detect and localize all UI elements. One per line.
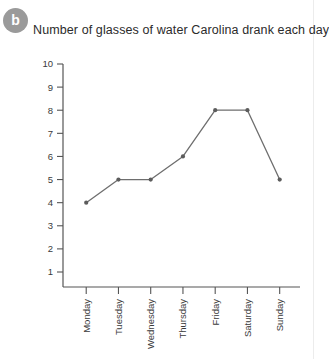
y-axis: 10987654321 <box>42 58 63 287</box>
data-point-marker <box>181 154 185 158</box>
x-tick-label: Sunday <box>274 299 285 331</box>
data-point-marker <box>149 177 153 181</box>
y-tick-label: 9 <box>48 82 53 93</box>
y-tick-label: 6 <box>48 151 53 162</box>
data-point-marker <box>116 177 120 181</box>
y-tick-label: 2 <box>48 243 53 254</box>
y-tick-label: 3 <box>48 220 53 231</box>
data-point-marker <box>213 108 217 112</box>
x-tick-label: Saturday <box>242 299 253 337</box>
y-tick-label: 1 <box>48 266 53 277</box>
y-tick-label: 10 <box>42 58 53 69</box>
x-tick-label: Wednesday <box>145 299 156 349</box>
x-tick-label: Monday <box>81 299 92 333</box>
y-tick-label: 7 <box>48 128 53 139</box>
data-series <box>84 108 282 205</box>
x-tick-label: Thursday <box>177 299 188 339</box>
data-point-marker <box>278 177 282 181</box>
x-axis: MondayTuesdayWednesdayThursdayFridaySatu… <box>63 287 300 349</box>
data-point-marker <box>245 108 249 112</box>
chart-page: b Number of glasses of water Carolina dr… <box>0 0 329 359</box>
x-tick-label: Tuesday <box>113 299 124 335</box>
chart-canvas: 10987654321 MondayTuesdayWednesdayThursd… <box>0 0 329 359</box>
y-tick-label: 8 <box>48 105 53 116</box>
x-tick-label: Friday <box>210 299 221 326</box>
y-tick-label: 5 <box>48 174 53 185</box>
data-point-marker <box>84 201 88 205</box>
line-chart: 10987654321 MondayTuesdayWednesdayThursd… <box>0 0 329 359</box>
y-tick-label: 4 <box>48 197 53 208</box>
